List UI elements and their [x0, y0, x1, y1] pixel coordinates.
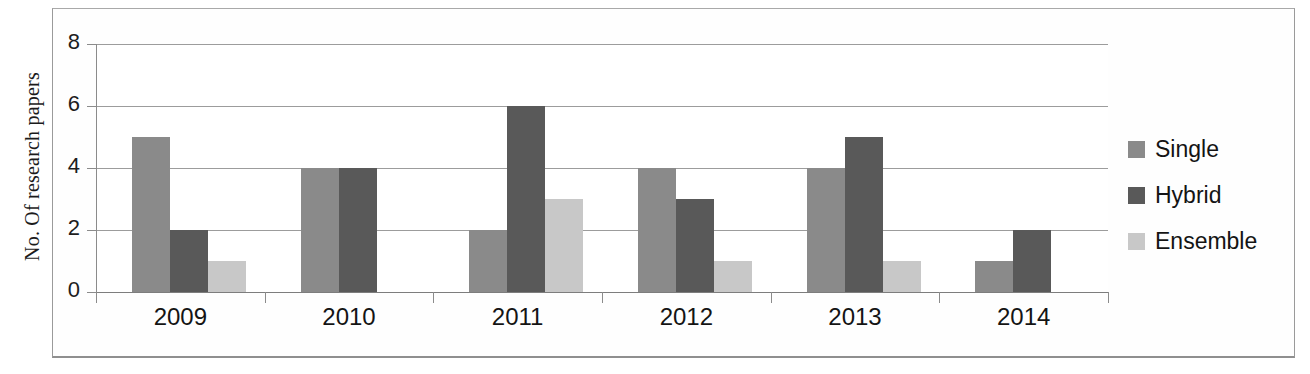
bar-hybrid-2013[interactable] — [845, 137, 883, 292]
bar-group-bars — [975, 44, 1089, 292]
bar-ensemble-2011[interactable] — [545, 199, 583, 292]
legend-item-ensemble[interactable]: Ensemble — [1128, 218, 1288, 264]
bar-group-2012 — [602, 44, 771, 292]
bar-group-2009 — [96, 44, 265, 292]
bar-group-2011 — [433, 44, 602, 292]
bar-group-bars — [132, 44, 246, 292]
bar-single-2012[interactable] — [638, 168, 676, 292]
x-axis-label-2014: 2014 — [939, 303, 1109, 331]
y-tick-label-0: 0 — [46, 277, 80, 303]
legend-item-hybrid[interactable]: Hybrid — [1128, 172, 1288, 218]
x-tick-3 — [602, 292, 603, 303]
bar-hybrid-2010[interactable] — [339, 168, 377, 292]
bar-ensemble-2012[interactable] — [714, 261, 752, 292]
legend-item-single[interactable]: Single — [1128, 126, 1288, 172]
y-tick-6 — [87, 106, 97, 107]
x-axis-label-2010: 2010 — [264, 303, 434, 331]
y-tick-label-6: 6 — [46, 91, 80, 117]
plot-area — [96, 44, 1108, 292]
bar-group-2014 — [939, 44, 1108, 292]
x-tick-5 — [939, 292, 940, 303]
y-tick-8 — [87, 44, 97, 45]
x-tick-2 — [433, 292, 434, 303]
y-axis-title: No. Of research papers — [21, 47, 44, 287]
x-tick-1 — [265, 292, 266, 303]
bar-group-bars — [638, 44, 752, 292]
legend-label-hybrid: Hybrid — [1155, 182, 1221, 209]
y-tick-label-2: 2 — [46, 215, 80, 241]
y-tick-label-4: 4 — [46, 153, 80, 179]
legend-label-single: Single — [1155, 136, 1219, 163]
bar-single-2011[interactable] — [469, 230, 507, 292]
bar-group-bars — [469, 44, 583, 292]
x-tick-0 — [96, 292, 97, 303]
y-tick-2 — [87, 230, 97, 231]
y-tick-label-8: 8 — [46, 29, 80, 55]
y-tick-4 — [87, 168, 97, 169]
bar-group-2010 — [265, 44, 434, 292]
bar-group-2013 — [771, 44, 940, 292]
legend-swatch-single-icon — [1128, 141, 1145, 158]
bar-ensemble-2009[interactable] — [208, 261, 246, 292]
x-axis-label-2012: 2012 — [601, 303, 771, 331]
x-tick-end — [1108, 292, 1109, 303]
bar-single-2013[interactable] — [807, 168, 845, 292]
legend-swatch-hybrid-icon — [1128, 187, 1145, 204]
x-axis-label-2009: 2009 — [95, 303, 265, 331]
bar-group-bars — [807, 44, 921, 292]
x-axis-label-2011: 2011 — [433, 303, 603, 331]
legend-label-ensemble: Ensemble — [1155, 228, 1257, 255]
chart-legend: SingleHybridEnsemble — [1128, 126, 1288, 264]
bar-single-2010[interactable] — [301, 168, 339, 292]
bar-hybrid-2012[interactable] — [676, 199, 714, 292]
bar-ensemble-2013[interactable] — [883, 261, 921, 292]
bar-hybrid-2011[interactable] — [507, 106, 545, 292]
bar-single-2009[interactable] — [132, 137, 170, 292]
bar-single-2014[interactable] — [975, 261, 1013, 292]
x-tick-4 — [771, 292, 772, 303]
bar-hybrid-2009[interactable] — [170, 230, 208, 292]
bar-hybrid-2014[interactable] — [1013, 230, 1051, 292]
legend-swatch-ensemble-icon — [1128, 233, 1145, 250]
x-axis-label-2013: 2013 — [770, 303, 940, 331]
bar-group-bars — [301, 44, 415, 292]
